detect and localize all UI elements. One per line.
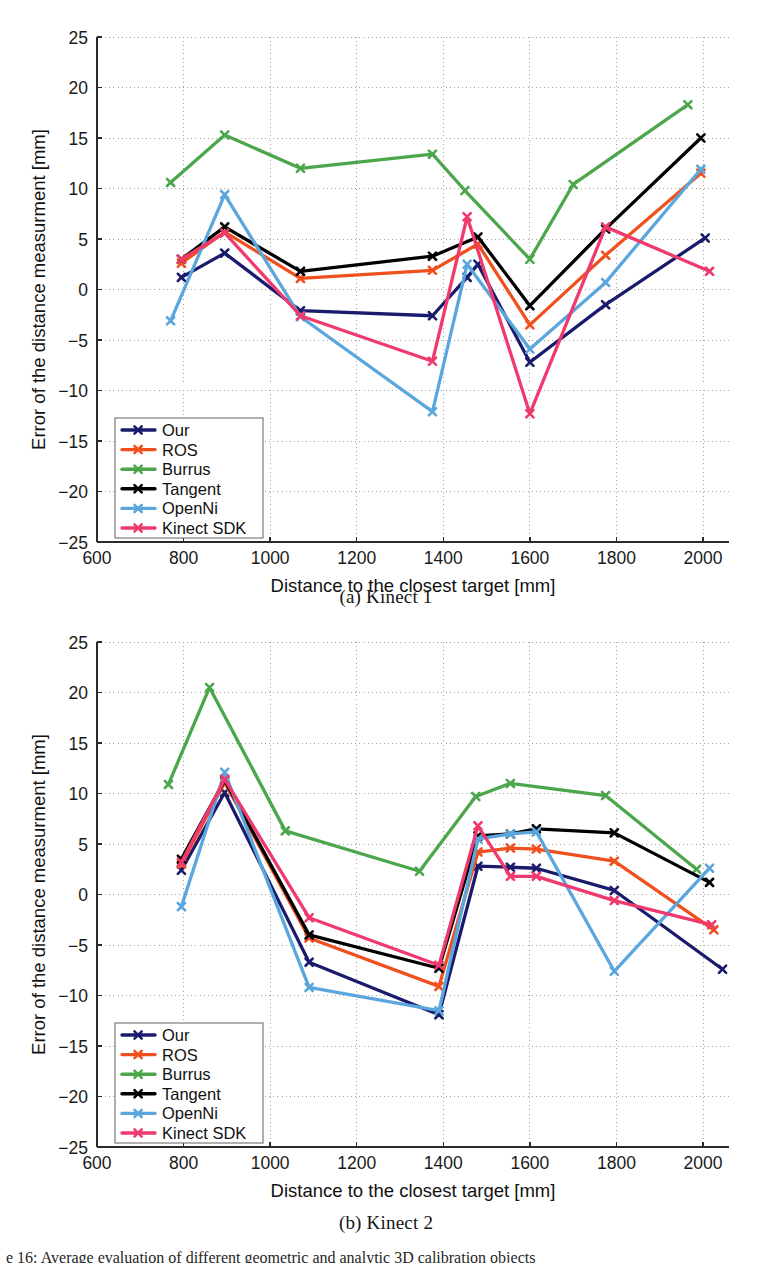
y-tick-label: −20 (58, 482, 88, 502)
subcaption-kinect-1: (a) Kinect 1 (0, 586, 772, 608)
y-tick-label: −10 (58, 381, 88, 401)
series-line (171, 105, 688, 260)
y-tick-label: 5 (78, 835, 88, 855)
subcaption-kinect-2: (b) Kinect 2 (0, 1212, 772, 1234)
series-kinect-sdk (178, 776, 715, 969)
y-tick-label: 10 (69, 784, 89, 804)
x-tick-label: 1400 (424, 548, 463, 568)
chart-panel-kinect-2: −25−20−15−10−505101520256008001000120014… (0, 615, 772, 1263)
legend-label: Our (162, 421, 190, 439)
chart-a-svg: −25−20−15−10−505101520256008001000120014… (0, 0, 772, 620)
series-line (171, 169, 701, 411)
y-tick-label: −5 (68, 331, 88, 351)
series-tangent (178, 134, 705, 309)
series-line (168, 687, 696, 871)
legend-label: Kinect SDK (162, 1124, 246, 1142)
series-line (181, 772, 709, 1010)
y-tick-label: −5 (68, 936, 88, 956)
x-tick-label: 1400 (424, 1153, 463, 1173)
data-series-group (167, 101, 713, 417)
chart-panel-kinect-1: −25−20−15−10−505101520256008001000120014… (0, 0, 772, 620)
legend-label: ROS (162, 441, 198, 459)
series-openni (178, 769, 713, 1015)
figure-container: −25−20−15−10−505101520256008001000120014… (0, 0, 772, 1263)
x-tick-label: 600 (82, 548, 111, 568)
series-marker (697, 134, 704, 141)
x-tick-label: 1200 (337, 1153, 376, 1173)
series-burrus (165, 684, 700, 875)
figure-caption-fragment: e 16: Average evaluation of different ge… (0, 1249, 772, 1263)
y-tick-label: 25 (69, 633, 88, 653)
y-tick-label: 20 (69, 683, 89, 703)
legend: OurROSBurrusTangentOpenNiKinect SDK (115, 1023, 263, 1143)
legend-label: OpenNi (162, 499, 218, 517)
y-tick-label: −15 (58, 1037, 88, 1057)
series-our (178, 789, 726, 1018)
chart-b-svg: −25−20−15−10−505101520256008001000120014… (0, 615, 772, 1263)
series-ros (178, 779, 718, 990)
legend-label: Burrus (162, 1065, 211, 1083)
series-marker (167, 179, 174, 186)
y-axis-label: Error of the distance measurment [mm] (28, 129, 49, 450)
y-tick-label: −10 (58, 986, 88, 1006)
y-tick-label: 0 (78, 885, 88, 905)
legend-label: Burrus (162, 460, 211, 478)
legend-label: Our (162, 1026, 190, 1044)
y-tick-label: 15 (69, 734, 88, 754)
x-tick-label: 1000 (251, 1153, 290, 1173)
y-tick-label: 20 (69, 78, 89, 98)
series-marker (706, 865, 713, 872)
x-tick-label: 1800 (597, 1153, 636, 1173)
series-kinect-sdk (178, 213, 713, 417)
y-tick-label: 0 (78, 280, 88, 300)
y-tick-label: −20 (58, 1087, 88, 1107)
legend-label: Tangent (162, 480, 221, 498)
x-tick-label: 1600 (510, 548, 549, 568)
x-axis-label: Distance to the closest target [mm] (271, 1180, 556, 1201)
x-tick-label: 1600 (510, 1153, 549, 1173)
x-tick-label: 1000 (251, 548, 290, 568)
y-tick-label: 5 (78, 230, 88, 250)
x-tick-label: 2000 (684, 1153, 723, 1173)
legend-label: OpenNi (162, 1104, 218, 1122)
series-marker (461, 187, 468, 194)
y-axis-label: Error of the distance measurment [mm] (28, 734, 49, 1055)
legend-label: Tangent (162, 1085, 221, 1103)
y-tick-label: 15 (69, 129, 88, 149)
y-tick-label: −15 (58, 432, 88, 452)
y-tick-label: 25 (69, 28, 88, 48)
legend-label: Kinect SDK (162, 519, 246, 537)
x-tick-label: 600 (82, 1153, 111, 1173)
x-tick-label: 2000 (684, 548, 723, 568)
y-tick-label: 10 (69, 179, 89, 199)
x-tick-label: 800 (169, 548, 198, 568)
legend: OurROSBurrusTangentOpenNiKinect SDK (115, 418, 263, 538)
x-tick-label: 800 (169, 1153, 198, 1173)
series-line (181, 782, 713, 986)
x-tick-label: 1200 (337, 548, 376, 568)
legend-label: ROS (162, 1046, 198, 1064)
x-tick-label: 1800 (597, 548, 636, 568)
data-series-group (165, 684, 726, 1018)
